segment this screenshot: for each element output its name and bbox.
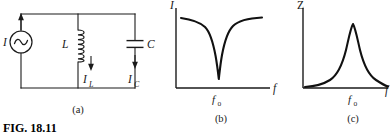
panel-b-caption: (b) [215,113,228,125]
figure-caption: FIG. 18.11 [3,121,57,135]
source-current-label: I [2,36,8,48]
capacitor-current-symbol: I [127,73,133,85]
panel-b-tick-f0: f o [212,93,222,108]
panel-c-chart: Z f f o (c) [297,0,390,125]
inductor-current-arrow [88,56,94,71]
panel-a-circuit: I L I L C [2,13,155,116]
sine-wave-icon [15,39,28,44]
inductor-arrow-head [88,64,94,71]
panel-a-caption: (a) [72,104,84,116]
inductor-label: L [61,38,68,50]
inductor-symbol [78,30,84,62]
panel-c-tick-f0: f o [348,93,358,108]
inductor-current-subscript: L [88,80,94,89]
capacitor-current-label: I C [127,73,140,89]
panel-b-x-axis-label: f [273,82,278,95]
capacitor-current-arrow [132,55,138,69]
panel-c-caption: (c) [347,113,359,125]
panel-c-curve [305,24,388,87]
panel-c-f0-subscript: o [354,99,358,108]
panel-b-f0-symbol: f [212,93,217,105]
source-current-arrow [18,13,24,30]
panel-c-y-axis-label: Z [297,0,304,11]
panel-b-chart: I f f o (b) [169,0,278,125]
inductor-current-label: I L [82,73,94,89]
capacitor-current-subscript: C [134,80,140,89]
panel-b-curve [181,18,262,80]
figure-canvas: I L I L C [0,0,392,136]
capacitor-arrow-head [132,62,138,69]
capacitor-symbol [127,41,144,48]
figure-18-11: I L I L C [0,0,392,136]
capacitor-label: C [147,38,155,50]
panel-b-y-axis-label: I [169,0,175,11]
inductor-current-symbol: I [82,73,88,85]
panel-c-f0-symbol: f [348,93,353,105]
panel-b-f0-subscript: o [218,99,222,108]
inductor-coil [78,30,84,62]
circuit-wires [21,14,135,88]
ac-source-symbol [10,31,32,53]
